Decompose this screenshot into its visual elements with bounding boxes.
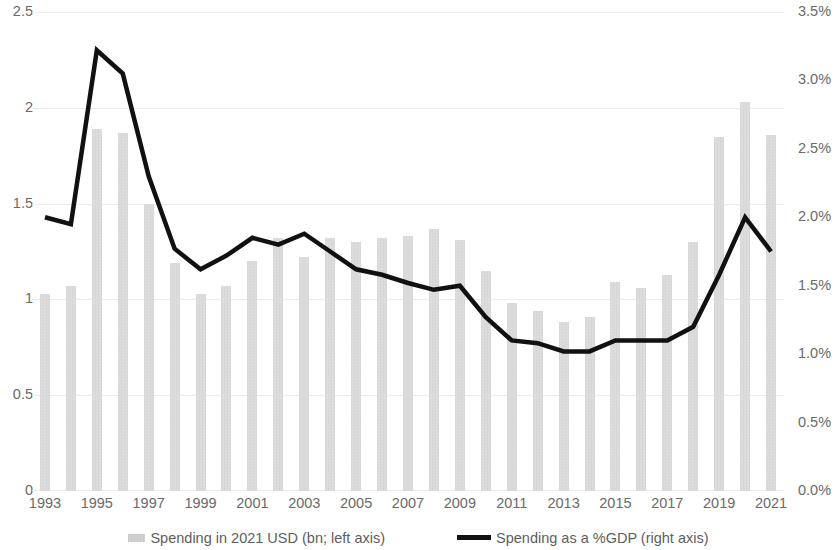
bar-2020 <box>740 102 750 491</box>
legend-item-spending-gdp: Spending as a %GDP (right axis) <box>457 530 709 546</box>
right-axis-tick: 0.5% <box>798 415 831 430</box>
x-axis-tick: 1993 <box>29 496 61 511</box>
bar-1999 <box>196 294 206 491</box>
right-percent-axis: 0.0%0.5%1.0%1.5%2.0%2.5%3.0%3.5% <box>789 0 837 492</box>
legend-label-spending-usd: Spending in 2021 USD (bn; left axis) <box>150 530 385 546</box>
category-axis: 1993199519971999200120032005200720092011… <box>32 496 784 520</box>
x-axis-tick: 2009 <box>444 496 476 511</box>
right-axis-tick: 3.5% <box>798 4 831 19</box>
bar-2015 <box>610 282 620 491</box>
bar-2009 <box>455 240 465 491</box>
bar-2013 <box>559 322 569 491</box>
x-axis-tick: 2013 <box>547 496 579 511</box>
legend-label-spending-gdp: Spending as a %GDP (right axis) <box>496 530 709 546</box>
bar-series-layer <box>32 12 784 491</box>
bar-2005 <box>351 242 361 491</box>
bar-2014 <box>585 317 595 491</box>
x-axis-tick: 1995 <box>81 496 113 511</box>
left-axis-tick: 1.5 <box>13 196 33 211</box>
plot-area <box>32 12 784 491</box>
left-axis-tick: 2.5 <box>13 4 33 19</box>
x-axis-tick: 2021 <box>755 496 787 511</box>
bar-1997 <box>144 204 154 491</box>
bar-2011 <box>507 303 517 491</box>
bar-1995 <box>92 129 102 491</box>
bar-2021 <box>766 135 776 491</box>
bar-2003 <box>299 257 309 491</box>
bar-2010 <box>481 271 491 491</box>
bar-2002 <box>273 238 283 491</box>
x-axis-tick: 1997 <box>133 496 165 511</box>
line-swatch-icon <box>457 535 491 540</box>
right-axis-tick: 0.0% <box>798 483 831 498</box>
bar-2008 <box>429 229 439 491</box>
bar-2006 <box>377 238 387 491</box>
x-axis-tick: 2011 <box>496 496 527 511</box>
x-axis-tick: 2003 <box>288 496 320 511</box>
bar-2016 <box>636 288 646 491</box>
legend-item-spending-usd: Spending in 2021 USD (bn; left axis) <box>128 530 385 546</box>
bar-1993 <box>40 294 50 491</box>
x-axis-tick: 2017 <box>651 496 683 511</box>
bar-1996 <box>118 133 128 491</box>
left-axis-tick: 0.5 <box>13 387 33 402</box>
bar-2017 <box>662 275 672 492</box>
right-axis-tick: 1.0% <box>798 346 831 361</box>
x-axis-tick: 2007 <box>392 496 424 511</box>
x-axis-tick: 2019 <box>703 496 735 511</box>
bar-1998 <box>170 263 180 491</box>
right-axis-tick: 2.0% <box>798 209 831 224</box>
right-axis-tick: 2.5% <box>798 141 831 156</box>
bar-2007 <box>403 236 413 491</box>
right-axis-tick: 3.0% <box>798 72 831 87</box>
bar-2012 <box>533 311 543 491</box>
bar-2001 <box>247 261 257 491</box>
bar-swatch-icon <box>128 534 145 542</box>
x-axis-tick: 1999 <box>184 496 216 511</box>
x-axis-tick: 2005 <box>340 496 372 511</box>
bar-2018 <box>688 242 698 491</box>
bar-2019 <box>714 137 724 491</box>
chart-container: 00.511.522.5 0.0%0.5%1.0%1.5%2.0%2.5%3.0… <box>0 0 837 550</box>
chart-legend: Spending in 2021 USD (bn; left axis) Spe… <box>0 525 837 550</box>
x-axis-tick: 2001 <box>236 496 268 511</box>
bar-2004 <box>325 238 335 491</box>
right-axis-tick: 1.5% <box>798 278 831 293</box>
bar-1994 <box>66 286 76 491</box>
bar-2000 <box>221 286 231 491</box>
x-axis-tick: 2015 <box>599 496 631 511</box>
